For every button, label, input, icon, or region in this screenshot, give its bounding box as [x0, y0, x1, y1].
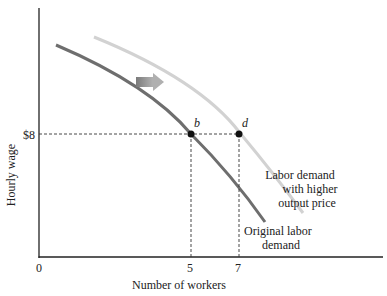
- x-tick-7: 7: [235, 261, 241, 275]
- new-demand-label-1: Labor demand: [265, 168, 335, 182]
- origin-label: 0: [36, 261, 42, 275]
- original-demand-label-2: demand: [262, 238, 300, 252]
- point-b: [188, 131, 195, 138]
- point-d-label: d: [242, 116, 249, 130]
- point-b-label: b: [194, 116, 200, 130]
- point-d: [236, 131, 243, 138]
- x-tick-5: 5: [187, 261, 193, 275]
- new-demand-label-3: output price: [278, 196, 336, 210]
- y-axis-label: Hourly wage: [4, 144, 18, 206]
- x-axis-label: Number of workers: [132, 278, 226, 292]
- labor-demand-chart: b d $8 0 5 7 Number of workers Hourly wa…: [0, 0, 387, 296]
- new-demand-label-2: with higher: [283, 182, 338, 196]
- y-tick-8: $8: [23, 128, 35, 142]
- original-demand-label-1: Original labor: [244, 224, 312, 238]
- original-demand-curve: [56, 45, 265, 222]
